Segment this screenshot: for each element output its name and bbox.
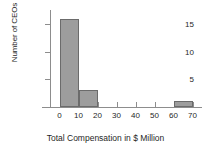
histogram-bar (79, 90, 98, 107)
x-tick-mark (193, 102, 194, 108)
x-axis-line (42, 107, 202, 108)
plot-area: 51015 010203040506070 (50, 10, 202, 108)
y-tick-mark (45, 52, 51, 53)
x-tick-mark (117, 102, 118, 108)
x-tick-mark (98, 102, 99, 108)
y-tick-label: 10 (185, 47, 194, 56)
x-tick-label: 10 (74, 111, 83, 120)
x-tick-mark (155, 102, 156, 108)
x-tick-label: 60 (169, 111, 178, 120)
histogram-chart: Number of CEOs Total Compensation in $ M… (0, 0, 211, 154)
x-tick-label: 20 (93, 111, 102, 120)
y-tick-mark (45, 79, 51, 80)
x-tick-label: 0 (57, 111, 61, 120)
x-tick-label: 50 (150, 111, 159, 120)
x-tick-label: 40 (131, 111, 140, 120)
x-axis-label: Total Compensation in $ Million (0, 133, 211, 143)
y-tick-label: 5 (190, 75, 194, 84)
x-tick-label: 70 (188, 111, 197, 120)
y-tick-mark (45, 24, 51, 25)
y-axis-label: Number of CEOs (10, 0, 19, 83)
x-tick-label: 30 (112, 111, 121, 120)
histogram-bar (60, 19, 79, 107)
x-tick-mark (136, 102, 137, 108)
y-tick-label: 15 (185, 20, 194, 29)
histogram-bar (174, 101, 193, 107)
